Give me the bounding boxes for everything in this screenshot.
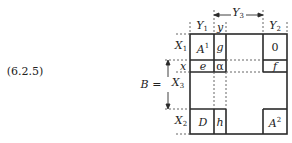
cell-zero: 0 — [272, 42, 279, 53]
cell-g: g — [216, 42, 223, 53]
col-label-y2: Y2 — [269, 20, 281, 35]
col-label-y1: Y1 — [196, 20, 208, 35]
col-label-y3: Y3 — [232, 7, 244, 22]
row-label-x2: X2 — [175, 115, 187, 130]
row-label-x: x — [180, 61, 186, 72]
col-label-y: y — [217, 22, 223, 33]
cell-a2: A2 — [269, 115, 281, 129]
matrix-name: B = — [141, 79, 162, 90]
equation-number: (6.2.5) — [7, 66, 44, 77]
cell-a1: A1 — [197, 41, 209, 55]
cell-f: f — [273, 61, 277, 72]
row-label-x1: X1 — [175, 40, 187, 55]
x3-span-arrow — [166, 60, 170, 109]
row-label-x3: X3 — [172, 77, 184, 92]
cell-alpha: α — [216, 61, 223, 72]
cell-h: h — [216, 117, 223, 128]
matrix-block-diagram — [0, 0, 292, 143]
cell-e: e — [200, 61, 207, 72]
cell-d: D — [199, 117, 208, 128]
